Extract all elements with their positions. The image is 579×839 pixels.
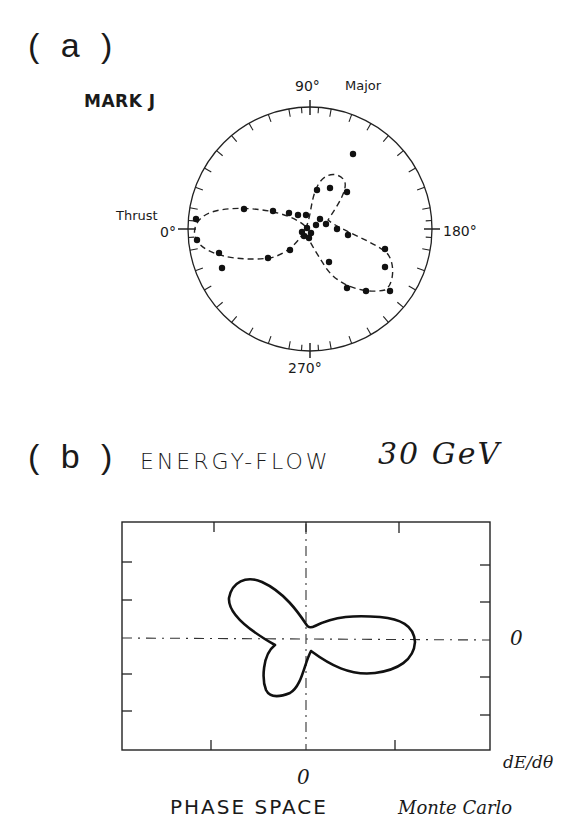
energy-flow-contour	[229, 579, 415, 696]
figure-graphics	[0, 0, 579, 839]
energy-flow-title: ENERGY-FLOW	[140, 449, 330, 474]
polar-points	[193, 151, 393, 294]
phase-space-label: PHASE SPACE	[170, 795, 328, 819]
panel-b-label: ( b )	[28, 437, 118, 476]
y-zero-label: 0	[510, 626, 523, 650]
energy-value: 30 GeV	[378, 436, 501, 471]
polar-contour	[194, 175, 392, 292]
y-axis-label-dE-dtheta: dE/dθ	[503, 752, 553, 772]
monte-carlo-label: Monte Carlo	[398, 797, 512, 818]
polar-plot	[178, 100, 440, 358]
x-zero-label: 0	[297, 765, 310, 789]
energy-flow-plot	[122, 522, 490, 750]
